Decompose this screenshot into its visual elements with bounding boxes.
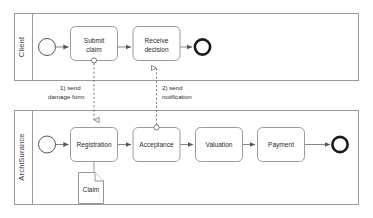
message-marker-submit-claim bbox=[91, 58, 96, 63]
message-marker-acceptance bbox=[154, 125, 159, 130]
task-acceptance[interactable]: Acceptance bbox=[133, 128, 180, 162]
client-end-event[interactable] bbox=[195, 39, 210, 54]
message-flow-1-label-line2: damage form bbox=[48, 93, 84, 100]
task-valuation-label: Valuation bbox=[205, 141, 232, 148]
bpmn-diagram-canvas: Client Submit claim Receive decision Arc… bbox=[0, 0, 373, 218]
claim-document-label: Claim bbox=[83, 186, 99, 193]
pool-client-label: Client bbox=[17, 36, 26, 57]
archisurance-start-event[interactable] bbox=[39, 136, 56, 153]
task-valuation[interactable]: Valuation bbox=[196, 128, 243, 162]
message-flow-2-label-line1: 2) send bbox=[162, 84, 183, 91]
task-payment-label: Payment bbox=[268, 141, 294, 149]
task-payment[interactable]: Payment bbox=[258, 128, 305, 162]
message-flow-2-label-line2: notification bbox=[162, 93, 192, 100]
pool-archisurance-label: ArchiSurance bbox=[17, 133, 26, 180]
message-flow-1-label-line1: 1) send bbox=[60, 84, 81, 91]
pool-archisurance[interactable]: ArchiSurance bbox=[15, 111, 359, 205]
task-submit-claim-label-line2: claim bbox=[86, 46, 102, 53]
pool-archisurance-boundary bbox=[15, 111, 359, 205]
task-receive-decision-label-line1: Receive bbox=[145, 37, 169, 44]
archisurance-end-event[interactable] bbox=[332, 137, 347, 152]
task-registration-label: Registration bbox=[76, 141, 112, 149]
task-acceptance-label: Acceptance bbox=[139, 141, 174, 149]
task-receive-decision[interactable]: Receive decision bbox=[133, 27, 180, 61]
task-registration[interactable]: Registration bbox=[71, 128, 118, 162]
task-receive-decision-label-line2: decision bbox=[144, 46, 169, 53]
task-submit-claim-label-line1: Submit bbox=[84, 37, 105, 44]
task-submit-claim[interactable]: Submit claim bbox=[71, 27, 118, 61]
client-start-event[interactable] bbox=[39, 39, 56, 56]
